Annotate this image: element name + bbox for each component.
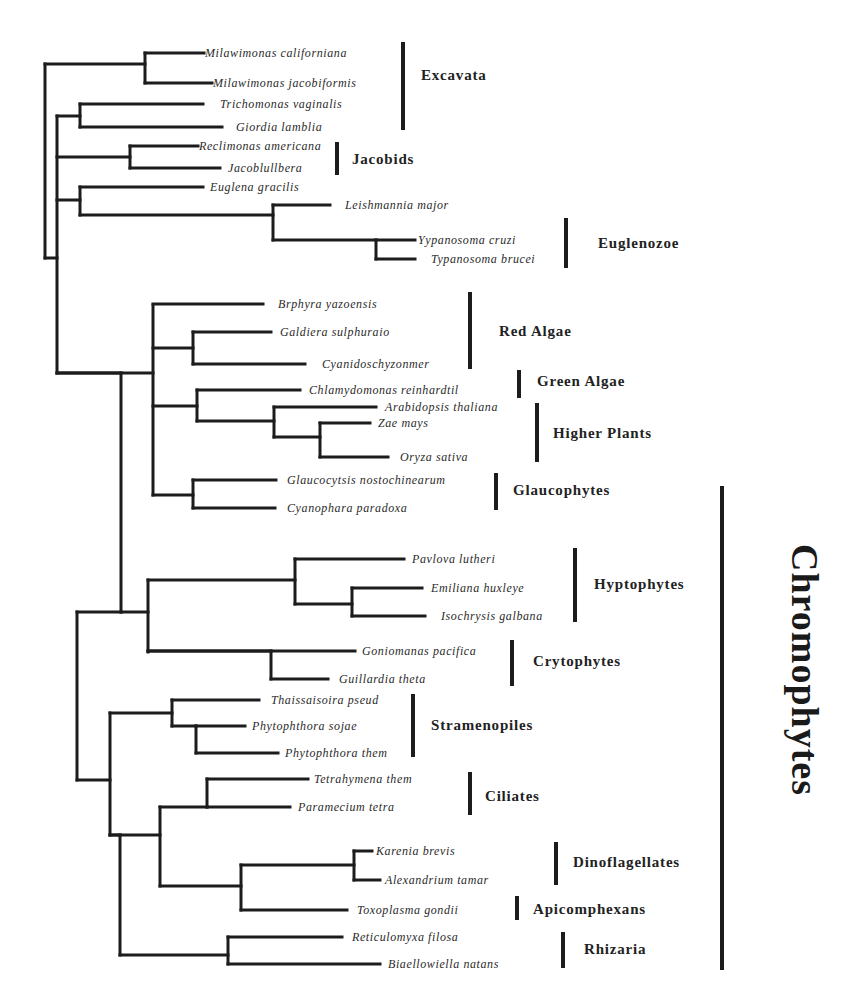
taxon-label: Euglena gracilis [209,180,299,194]
clade-stramenopiles: Stramenopiles [413,694,533,757]
taxon-label: Reclimonas americana [198,139,321,153]
clade-label: Dinoflagellates [573,854,680,870]
clade-label: Ciliates [485,788,540,804]
clade-label: Jacobids [352,151,414,167]
taxon-label: Phytophthora sojae [251,719,357,733]
taxon-label: Leishmannia major [344,198,449,212]
taxon-label: Thaissaisoira pseud [271,693,379,707]
supergroup-bracket: Chromophytes [722,486,826,970]
clade-apicomphexans: Apicomphexans [517,896,646,920]
clade-excavata: Excavata [403,42,487,130]
clade-euglenozoe: Euglenozoe [566,218,679,268]
taxon-label: Typanosoma brucei [431,252,535,266]
clade-label: Excavata [421,67,487,83]
taxon-label: Arabidopsis thaliana [384,400,498,414]
taxon-label: Oryza sativa [400,450,468,464]
taxon-label: Galdiera sulphuraio [280,325,390,339]
clade-label: Green Algae [537,373,625,389]
taxon-label: Goniomanas pacifica [362,644,476,658]
clade-crytophytes: Crytophytes [512,640,621,686]
clade-label: Glaucophytes [513,482,610,498]
clade-glaucophytes: Glaucophytes [496,473,610,510]
taxon-label: Isochrysis galbana [440,609,543,623]
clade-red-algae: Red Algae [470,292,572,369]
taxon-label: Cyanidoschyzonmer [322,357,430,371]
taxon-label: Phytophthora them [284,746,388,760]
clade-jacobids: Jacobids [337,142,414,175]
taxon-label: Emiliana huxleye [430,581,524,595]
clade-label: Euglenozoe [598,235,679,251]
clade-label: Stramenopiles [431,717,533,733]
taxon-label: Paramecium tetra [297,800,395,814]
clade-green-algae: Green Algae [519,370,625,398]
taxon-label: Reticulomyxa filosa [351,930,458,944]
clade-label: Higher Plants [553,425,652,441]
taxon-label: Karenia brevis [375,844,455,858]
clade-label: Hyptophytes [594,576,684,592]
taxon-label: Giordia lamblia [236,120,322,134]
clade-hyptophytes: Hyptophytes [575,548,684,622]
phylogenetic-tree: Milawimonas californianaMilawimonas jaco… [0,0,858,1005]
taxon-label: Jacoblullbera [228,161,302,175]
taxon-label: Brphyra yazoensis [278,297,377,311]
taxon-label: Milawimonas californiana [204,46,347,60]
taxon-label: Chlamydomonas reinhardtil [309,383,459,397]
taxon-label: Pavlova lutheri [411,552,495,566]
taxon-label: Milawimonas jacobiformis [212,76,356,90]
clade-label: Red Algae [499,323,572,339]
taxon-label: Trichomonas vaginalis [220,97,342,111]
taxon-label: Toxoplasma gondii [357,903,458,917]
clade-ciliates: Ciliates [470,772,540,815]
taxon-label: Zae mays [378,416,428,430]
clade-label: Rhizaria [584,941,646,957]
taxon-label: Biaellowiella natans [388,957,499,971]
clade-higher-plants: Higher Plants [537,403,652,462]
clade-label: Apicomphexans [533,901,646,917]
chromophytes-label: Chromophytes [784,544,826,796]
clade-rhizaria: Rhizaria [563,932,646,968]
taxon-label: Guillardia theta [339,672,426,686]
clade-label: Crytophytes [533,653,621,669]
taxon-label: Cyanophara paradoxa [287,501,407,515]
taxon-label: Glaucocytsis nostochinearum [287,473,446,487]
taxon-label: Yypanosoma cruzi [418,233,516,247]
taxon-label: Alexandrium tamar [384,873,489,887]
clade-dinoflagellates: Dinoflagellates [556,842,680,885]
taxon-label: Tetrahymena them [314,772,412,786]
